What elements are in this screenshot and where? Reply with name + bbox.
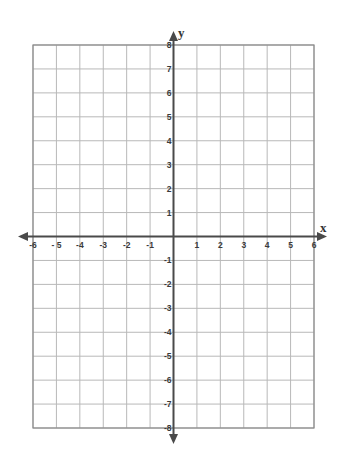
x-tick-label: -6: [29, 240, 37, 250]
y-tick-label: 3: [167, 160, 172, 170]
x-tick-label: 4: [265, 240, 270, 250]
y-tick-label: -3: [164, 303, 172, 313]
x-tick-label: 3: [241, 240, 246, 250]
y-tick-label: -7: [164, 399, 172, 409]
y-axis-down-arrow-icon: [169, 434, 178, 444]
y-tick-label: -2: [164, 279, 172, 289]
x-axis-label: x: [320, 220, 327, 235]
y-tick-label: -4: [164, 327, 172, 337]
y-tick-label: -6: [164, 375, 172, 385]
y-tick-label: 7: [167, 64, 172, 74]
x-tick-label: -1: [146, 240, 154, 250]
x-tick-label: -2: [123, 240, 131, 250]
x-tick-label: 5: [288, 240, 293, 250]
x-tick-label: - 5: [51, 240, 61, 250]
y-tick-label: -5: [164, 351, 172, 361]
y-axis-label: y: [178, 25, 185, 40]
x-tick-label: 6: [312, 240, 317, 250]
x-tick-label: -4: [76, 240, 84, 250]
y-tick-label: -8: [164, 423, 172, 433]
y-tick-label: 6: [167, 88, 172, 98]
x-axis-left-arrow-icon: [18, 232, 28, 241]
x-tick-label: 2: [218, 240, 223, 250]
x-tick-label: -3: [99, 240, 107, 250]
y-tick-label: 4: [167, 136, 172, 146]
y-tick-label: 5: [167, 112, 172, 122]
y-tick-label: -1: [164, 255, 172, 265]
x-tick-label: 1: [195, 240, 200, 250]
y-tick-label: 1: [167, 208, 172, 218]
y-tick-label: 2: [167, 184, 172, 194]
coordinate-plane: -6- 5-4-3-2-112345687654321-1-2-3-4-5-6-…: [0, 0, 349, 468]
y-tick-label: 8: [167, 40, 172, 50]
